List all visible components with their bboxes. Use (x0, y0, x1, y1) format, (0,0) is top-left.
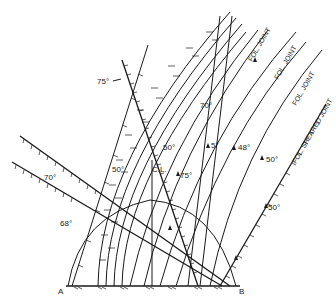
joint-label-3: FOL. JOINT (291, 70, 316, 107)
dip-5: 5° (211, 141, 219, 150)
joint-label-4: FOL. SHEARED JOINT (291, 97, 334, 165)
dip-50-a: 50° (112, 165, 124, 174)
geological-section-diagram: A B C.L. 75° 70° 68° 50° 50° 70° 75° 5° … (0, 0, 336, 298)
joint-label-1: FOL. JOINT (247, 26, 272, 63)
label-center-line: C.L. (152, 165, 167, 174)
dip-48: 48° (238, 143, 250, 152)
dip-75-mid: 75° (180, 171, 192, 180)
hatched-plane-70 (20, 136, 230, 286)
baseline-ab (66, 286, 240, 289)
dip-68-left: 68° (60, 219, 72, 228)
dip-70-mid: 70° (200, 101, 212, 110)
label-a: A (58, 287, 64, 296)
dip-75-top: 75° (97, 77, 109, 86)
joint-label-2: FOL. JOINT (273, 44, 298, 81)
label-b: B (239, 287, 244, 296)
dip-50-b: 50° (163, 143, 175, 152)
dip-50-d: 50° (268, 203, 280, 212)
dip-50-c: 50° (266, 155, 278, 164)
dip-70-left: 70° (44, 173, 56, 182)
